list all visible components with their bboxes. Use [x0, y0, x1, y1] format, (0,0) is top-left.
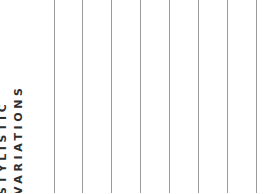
title-line-variations: VARIATIONS	[13, 84, 24, 193]
grid-line-2	[82, 0, 83, 193]
grid-line-1	[54, 0, 55, 193]
grid-line-7	[227, 0, 228, 193]
title-line-stylistic: STYLISTIC	[0, 101, 8, 194]
grid-line-5	[169, 0, 170, 193]
grid-line-8	[256, 0, 257, 193]
grid-line-6	[198, 0, 199, 193]
grid-line-4	[140, 0, 141, 193]
grid-line-3	[111, 0, 112, 193]
